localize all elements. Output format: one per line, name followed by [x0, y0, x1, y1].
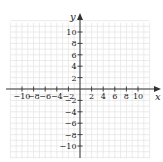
y-tick-label: −8	[65, 131, 77, 140]
y-tick-label: 2	[71, 74, 76, 83]
x-tick-label: −4	[51, 92, 63, 101]
y-tick-label: −2	[65, 96, 77, 105]
x-tick-label: 2	[89, 92, 94, 101]
x-tick-label: 6	[112, 92, 117, 101]
coordinate-plane: −10−8−6−4−2246810108642−2−4−6−8−10 x y	[0, 0, 163, 162]
x-tick-label: −6	[39, 92, 51, 101]
x-tick-label: 8	[124, 92, 129, 101]
x-tick-label: 10	[133, 92, 143, 101]
y-tick-label: −10	[60, 142, 77, 151]
x-tick-label: 4	[101, 92, 106, 101]
y-tick-label: −6	[65, 119, 77, 128]
y-axis-label: y	[69, 11, 76, 22]
y-tick-label: 4	[71, 62, 76, 71]
x-axis-label: x	[155, 91, 161, 102]
y-tick-label: 6	[71, 51, 76, 60]
y-tick-label: −4	[65, 108, 77, 117]
y-tick-label: 8	[71, 39, 76, 48]
y-tick-label: 10	[66, 28, 76, 37]
x-tick-label: −8	[28, 92, 40, 101]
y-axis-arrow-icon	[77, 13, 83, 20]
